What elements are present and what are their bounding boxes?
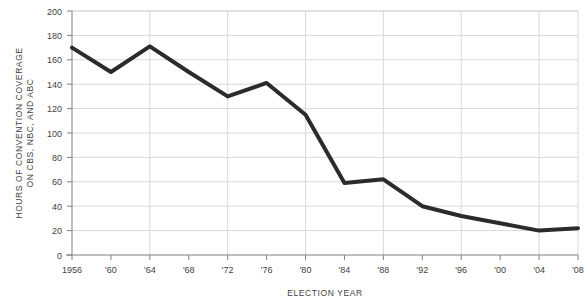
x-axis-ticks: 1956'60'64'68'72'76'80'84'88'92'96'00'04… bbox=[62, 255, 584, 275]
x-tick-label: '08 bbox=[572, 265, 584, 275]
y-axis-title-line2: ON CBS, NBC, AND ABC bbox=[25, 79, 35, 188]
y-axis-title: HOURS OF CONVENTION COVERAGEON CBS, NBC,… bbox=[14, 47, 35, 218]
chart-container: 0204060801001201401601802001956'60'64'68… bbox=[0, 0, 588, 304]
y-tick-label: 60 bbox=[52, 177, 62, 187]
x-tick-label: '60 bbox=[105, 265, 117, 275]
x-tick-label: '72 bbox=[222, 265, 234, 275]
y-tick-label: 160 bbox=[47, 55, 62, 65]
x-tick-label: '04 bbox=[533, 265, 545, 275]
x-tick-label: '96 bbox=[455, 265, 467, 275]
x-tick-label: 1956 bbox=[62, 265, 82, 275]
y-tick-label: 120 bbox=[47, 104, 62, 114]
y-tick-label: 180 bbox=[47, 31, 62, 41]
y-axis-title-line1: HOURS OF CONVENTION COVERAGE bbox=[14, 47, 24, 218]
x-tick-label: '84 bbox=[339, 265, 351, 275]
x-tick-label: '92 bbox=[416, 265, 428, 275]
x-axis-title: ELECTION YEAR bbox=[287, 288, 363, 298]
y-tick-label: 200 bbox=[47, 7, 62, 17]
y-tick-label: 20 bbox=[52, 226, 62, 236]
x-tick-label: '00 bbox=[494, 265, 506, 275]
y-tick-label: 0 bbox=[57, 251, 62, 261]
y-tick-label: 140 bbox=[47, 80, 62, 90]
y-axis-ticks: 020406080100120140160180200 bbox=[47, 7, 72, 261]
line-chart: 0204060801001201401601802001956'60'64'68… bbox=[0, 0, 588, 304]
x-tick-label: '68 bbox=[183, 265, 195, 275]
x-tick-label: '80 bbox=[300, 265, 312, 275]
x-tick-label: '76 bbox=[261, 265, 273, 275]
data-series-line bbox=[72, 46, 578, 230]
y-tick-label: 40 bbox=[52, 202, 62, 212]
y-tick-label: 80 bbox=[52, 153, 62, 163]
x-tick-label: '88 bbox=[378, 265, 390, 275]
y-tick-label: 100 bbox=[47, 129, 62, 139]
x-tick-label: '64 bbox=[144, 265, 156, 275]
